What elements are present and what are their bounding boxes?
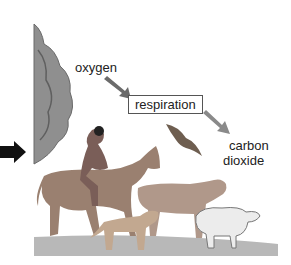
- arrow-co2-icon: [203, 110, 230, 134]
- bird-icon: [166, 124, 202, 156]
- ground: [34, 235, 278, 256]
- carbon-label: carbon: [229, 138, 269, 153]
- arrow-oxygen-icon: [104, 76, 131, 99]
- helmet-icon: [94, 126, 104, 136]
- respiration-box: respiration: [128, 95, 203, 114]
- oxygen-label: oxygen: [75, 60, 117, 75]
- dioxide-label: dioxide: [223, 153, 264, 168]
- scene-illustration: [0, 0, 291, 265]
- pointer-arrow-icon: [0, 141, 26, 163]
- tree-icon: [34, 24, 73, 164]
